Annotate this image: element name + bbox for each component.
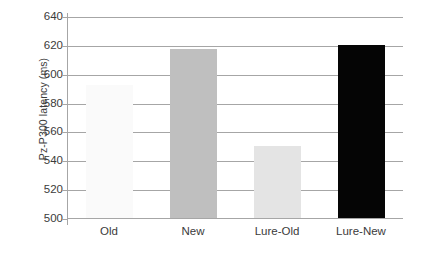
y-axis-tick-label: 500	[19, 213, 63, 225]
bar	[338, 45, 385, 218]
y-axis-tick-label: 520	[19, 184, 63, 196]
x-axis-tick-label: New	[151, 226, 235, 238]
y-axis-tick-label: 580	[19, 98, 63, 110]
x-axis-tick-label: Lure-Old	[235, 226, 319, 238]
y-axis-tick-mark	[62, 219, 67, 220]
y-axis-tick-labels: 500520540560580600620640	[0, 0, 63, 262]
x-axis-tick-labels: OldNewLure-OldLure-New	[67, 226, 403, 246]
y-axis-tick-label: 540	[19, 155, 63, 167]
x-axis-tick-label: Lure-New	[319, 226, 403, 238]
y-axis-tick-label: 640	[19, 11, 63, 23]
bar-chart: Pz-P300 latency (ms) 5005205405605806006…	[0, 0, 422, 262]
plot-area	[67, 17, 403, 219]
x-axis-line	[67, 218, 403, 219]
x-axis-tick-label: Old	[67, 226, 151, 238]
y-axis-tick-label: 620	[19, 40, 63, 52]
bar	[170, 49, 217, 218]
bar	[86, 85, 133, 218]
y-axis-tick-label: 560	[19, 126, 63, 138]
y-axis-tick-label: 600	[19, 69, 63, 81]
gridline	[67, 17, 403, 18]
bar	[254, 146, 301, 218]
